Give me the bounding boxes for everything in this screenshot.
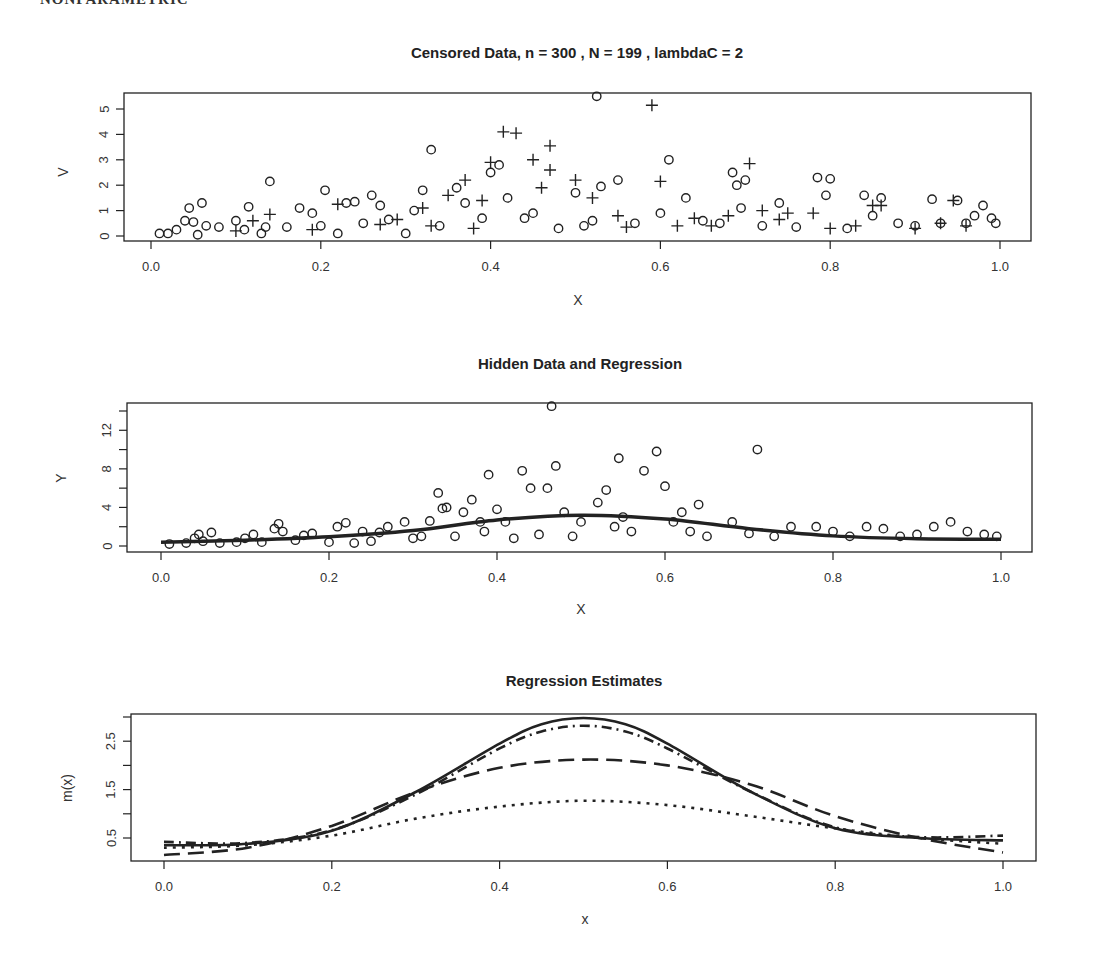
y-tick-label: 1 [97, 207, 112, 214]
x-tick-label: 0.0 [155, 879, 173, 894]
circle-marker [295, 204, 303, 212]
circle-marker [202, 222, 210, 230]
circle-marker [452, 184, 460, 192]
circle-marker [770, 532, 778, 540]
plus-marker [476, 194, 488, 206]
y-tick-label: 0 [100, 542, 115, 549]
plot1-frame [124, 93, 1031, 241]
circle-marker [979, 201, 987, 209]
circle-marker [367, 537, 375, 545]
y-tick-label: 3 [97, 156, 112, 163]
plot2-frame [127, 403, 1032, 552]
plus-marker [247, 215, 259, 227]
circle-marker [181, 217, 189, 225]
y-tick-label: 0.5 [104, 829, 119, 847]
x-tick-label: 1.0 [991, 259, 1009, 274]
circle-marker [400, 518, 408, 526]
circle-marker [418, 186, 426, 194]
circle-marker [970, 211, 978, 219]
circle-marker [185, 204, 193, 212]
figure-canvas: Censored Data, n = 300 , N = 199 , lambd… [0, 0, 1093, 975]
estimate-line-dashdot [164, 726, 1003, 844]
circle-marker [728, 168, 736, 176]
circle-marker [580, 222, 588, 230]
plot2-y-axis: 04812 [100, 411, 128, 550]
circle-marker [417, 532, 425, 540]
x-tick-label: 0.0 [152, 570, 170, 585]
y-tick-label: 12 [100, 423, 115, 437]
plot2-points [165, 402, 1001, 548]
plot3-title: Regression Estimates [506, 672, 663, 689]
circle-marker [484, 470, 492, 478]
plus-marker [773, 213, 785, 225]
circle-marker [733, 181, 741, 189]
y-tick-label: 5 [97, 105, 112, 112]
circle-marker [409, 534, 417, 542]
plus-marker [646, 99, 658, 111]
plus-marker [544, 140, 556, 152]
circle-marker [640, 467, 648, 475]
plus-marker [497, 126, 509, 138]
plot1-points [155, 92, 1000, 239]
circle-marker [468, 496, 476, 504]
circle-marker [459, 508, 467, 516]
plus-marker [875, 200, 887, 212]
circle-marker [350, 539, 358, 547]
circle-marker [503, 194, 511, 202]
x-tick-label: 0.0 [142, 259, 160, 274]
plus-marker [807, 207, 819, 219]
plus-marker [536, 182, 548, 194]
circle-marker [308, 209, 316, 217]
circle-marker [155, 229, 163, 237]
plus-marker [425, 220, 437, 232]
circle-marker [434, 489, 442, 497]
circle-marker [543, 484, 551, 492]
circle-marker [775, 199, 783, 207]
circle-marker [244, 203, 252, 211]
plus-marker [654, 175, 666, 187]
circle-marker [342, 199, 350, 207]
circle-marker [661, 482, 669, 490]
plus-marker [468, 222, 480, 234]
y-tick-label: 4 [97, 131, 112, 138]
circle-marker [461, 199, 469, 207]
circle-marker [451, 532, 459, 540]
circle-marker [526, 484, 534, 492]
plus-marker [612, 210, 624, 222]
plot2-x-axis: 0.00.20.40.60.81.0 [152, 552, 1010, 585]
circle-marker [665, 156, 673, 164]
circle-marker [868, 211, 876, 219]
plus-marker [722, 210, 734, 222]
plus-marker [527, 154, 539, 166]
circle-marker [615, 454, 623, 462]
circle-marker [249, 530, 257, 538]
circle-marker [627, 527, 635, 535]
circle-marker [325, 538, 333, 546]
plot3-frame [131, 714, 1036, 861]
plus-marker [459, 174, 471, 186]
plus-marker [756, 205, 768, 217]
circle-marker [215, 223, 223, 231]
circle-marker [520, 214, 528, 222]
plot1-y-axis: 012345 [97, 105, 125, 239]
circle-marker [980, 530, 988, 538]
plot1-x-axis: 0.00.20.40.60.81.0 [142, 241, 1009, 274]
circle-marker [568, 532, 576, 540]
circle-marker [480, 527, 488, 535]
circle-marker [822, 191, 830, 199]
circle-marker [610, 523, 618, 531]
circle-marker [333, 523, 341, 531]
circle-marker [602, 486, 610, 494]
plot-censored-data: Censored Data, n = 300 , N = 199 , lambd… [55, 44, 1031, 308]
plot-hidden-data: Hidden Data and Regression 0.00.20.40.60… [53, 355, 1032, 617]
plot3-estimate-lines [164, 718, 1003, 855]
circle-marker [597, 182, 605, 190]
circle-marker [189, 218, 197, 226]
x-tick-label: 0.4 [491, 879, 509, 894]
x-tick-label: 0.6 [658, 879, 676, 894]
x-tick-label: 0.8 [824, 570, 842, 585]
plus-marker [824, 222, 836, 234]
plot2-title: Hidden Data and Regression [478, 355, 682, 372]
circle-marker [594, 498, 602, 506]
circle-marker [631, 219, 639, 227]
